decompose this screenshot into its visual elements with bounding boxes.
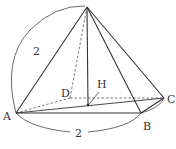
pyramid-diagram: 2 2 H D A B C — [0, 0, 176, 149]
label-D: D — [61, 87, 70, 100]
label-OA-length: 2 — [33, 45, 40, 58]
point-H — [87, 104, 90, 107]
label-C: C — [167, 93, 175, 106]
edge-OA — [16, 7, 87, 113]
arc-OA-length — [11, 6, 85, 113]
diagonal-AC — [16, 98, 164, 113]
label-H: H — [97, 78, 107, 91]
arc-AB-right — [88, 113, 141, 132]
height-OH — [87, 7, 88, 105]
label-AB-length: 2 — [75, 127, 82, 140]
label-A: A — [2, 110, 12, 123]
label-B: B — [143, 120, 151, 133]
arc-AB-left — [16, 113, 70, 132]
